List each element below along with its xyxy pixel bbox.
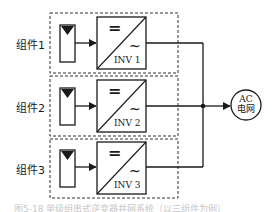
- grid-label-cn: 电网: [231, 104, 261, 114]
- dc-symbol-1: =: [108, 18, 121, 37]
- ac-symbol-1: ~: [129, 38, 141, 54]
- dc-symbol-2: =: [108, 81, 121, 100]
- inverter-label-3: INV 3: [114, 180, 141, 190]
- inverter-label-2: INV 2: [114, 118, 141, 128]
- ac-symbol-3: ~: [129, 163, 141, 179]
- module-label-2: 组件2: [16, 99, 45, 115]
- ac-symbol-2: ~: [129, 101, 141, 117]
- module-label-3: 组件3: [16, 161, 45, 177]
- inverter-label-1: INV 1: [114, 55, 141, 65]
- dc-symbol-3: =: [108, 143, 121, 162]
- figure-caption: 图5-18 单级组串式逆变器并网系统（以三组件为例）: [14, 202, 226, 212]
- module-label-1: 组件1: [16, 36, 45, 52]
- grid-label-ac: AC: [231, 94, 261, 104]
